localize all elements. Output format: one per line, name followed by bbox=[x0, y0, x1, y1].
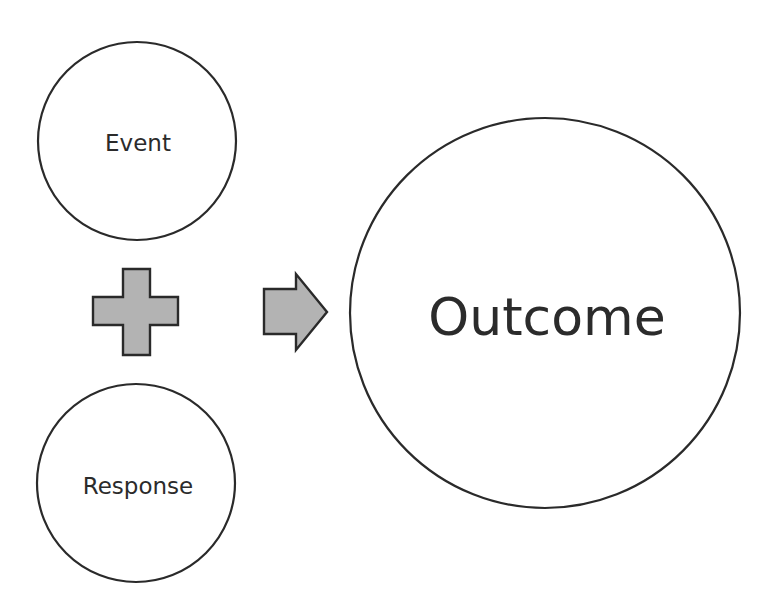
event-label: Event bbox=[105, 130, 171, 156]
event-node: Event bbox=[38, 42, 236, 240]
response-node: Response bbox=[37, 384, 235, 582]
outcome-label: Outcome bbox=[428, 287, 665, 347]
right-arrow-icon bbox=[264, 274, 327, 350]
outcome-node: Outcome bbox=[350, 118, 740, 508]
plus-icon bbox=[93, 269, 178, 355]
response-label: Response bbox=[83, 473, 193, 499]
event-response-outcome-diagram: Event Response Outcome bbox=[0, 0, 761, 612]
